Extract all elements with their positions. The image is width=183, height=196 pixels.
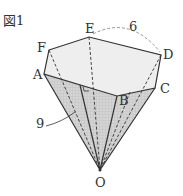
label-d: D: [163, 48, 173, 61]
label-c: C: [160, 82, 170, 95]
label-b: B: [119, 94, 129, 107]
label-o: O: [95, 176, 106, 189]
label-length-9: 9: [36, 117, 44, 130]
label-f: F: [37, 41, 46, 54]
label-length-6: 6: [129, 20, 137, 33]
figure-title: 図1: [3, 14, 24, 27]
label-e: E: [85, 22, 95, 35]
label-a: A: [33, 68, 42, 81]
apex-point: [99, 169, 102, 172]
